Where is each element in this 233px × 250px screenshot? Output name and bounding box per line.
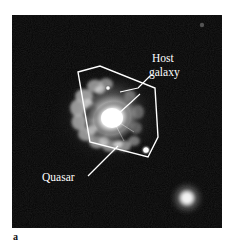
figure-panel: Host galaxy Quasar a: [0, 0, 233, 250]
faint-speck-top-right: [200, 23, 204, 27]
photo-plate: Host galaxy Quasar: [12, 15, 222, 228]
quasar-label: Quasar: [42, 171, 75, 183]
companion-blob: [168, 179, 206, 217]
host-galaxy-label-line1: Host: [152, 52, 175, 64]
host-galaxy-label-line2: galaxy: [149, 66, 180, 79]
quasar-host-galaxy-image: Host galaxy Quasar: [0, 0, 233, 250]
figure-letter-label: a: [13, 232, 18, 242]
star-point-upper-edge: [105, 85, 111, 91]
